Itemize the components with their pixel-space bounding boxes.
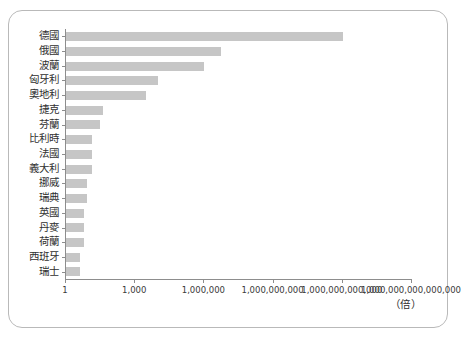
chart-figure: 德國俄國波蘭匈牙利奧地利捷克芬蘭比利時法國義大利挪威瑞典英國丹麥荷蘭西班牙瑞士 … [8,10,448,328]
category-label: 西班牙 [0,251,59,262]
bar-row [66,103,412,119]
bar [66,223,84,232]
bar [66,76,158,85]
bar-row [66,264,412,280]
value-tick-label: 1,000 [122,285,146,295]
bar-row [66,220,412,236]
value-tick-label: 1,000,000,000 [242,285,304,295]
bar [66,106,103,115]
bar [66,91,146,100]
category-tick [62,110,66,111]
category-tick [62,183,66,184]
category-tick [62,242,66,243]
bar-row [66,88,412,104]
bar-row [66,132,412,148]
category-tick [62,139,66,140]
category-axis-labels: 德國俄國波蘭匈牙利奧地利捷克芬蘭比利時法國義大利挪威瑞典英國丹麥荷蘭西班牙瑞士 [0,29,59,279]
value-tick [411,279,412,283]
bar [66,150,92,159]
bar-row [66,191,412,207]
category-label: 瑞士 [0,266,59,277]
category-label: 挪威 [0,177,59,188]
plot-area: 德國俄國波蘭匈牙利奧地利捷克芬蘭比利時法國義大利挪威瑞典英國丹麥荷蘭西班牙瑞士 … [65,29,425,279]
category-label: 瑞典 [0,192,59,203]
bars-group [66,29,412,279]
bar-row [66,161,412,177]
category-label: 匈牙利 [0,74,59,85]
unit-caption: （倍） [390,296,422,311]
value-tick [273,279,274,283]
bar [66,135,92,144]
category-tick [62,51,66,52]
bar-row [66,176,412,192]
bar-row [66,205,412,221]
category-tick [62,36,66,37]
category-tick [62,272,66,273]
category-label: 俄國 [0,45,59,56]
value-tick [342,279,343,283]
category-tick [62,198,66,199]
bar-row [66,147,412,163]
bar-row [66,73,412,89]
bar [66,120,100,129]
category-label: 奧地利 [0,89,59,100]
category-tick [62,154,66,155]
bar [66,165,92,174]
value-tick-label: 1 [62,285,67,295]
value-tick [203,279,204,283]
category-tick [62,228,66,229]
value-tick-label: 1,000,000,000,000,000 [361,285,461,295]
bar [66,194,87,203]
category-tick [62,95,66,96]
category-tick [62,257,66,258]
category-label: 法國 [0,148,59,159]
bar [66,32,343,41]
category-tick [62,169,66,170]
category-tick [62,80,66,81]
bar [66,179,87,188]
bar [66,253,80,262]
value-tick [134,279,135,283]
bar [66,267,80,276]
category-label: 英國 [0,207,59,218]
category-tick [62,66,66,67]
bar-row [66,117,412,133]
value-tick-label: 1,000,000 [182,285,225,295]
bar-row [66,29,412,45]
bar [66,62,204,71]
bar-row [66,235,412,251]
category-label: 丹麥 [0,222,59,233]
bar-row [66,250,412,266]
category-label: 義大利 [0,163,59,174]
category-label: 荷蘭 [0,236,59,247]
bar-row [66,44,412,60]
category-tick [62,213,66,214]
bar-row [66,58,412,74]
category-label: 捷克 [0,104,59,115]
category-tick [62,125,66,126]
bar [66,209,84,218]
category-label: 比利時 [0,133,59,144]
category-label: 芬蘭 [0,119,59,130]
bar [66,47,221,56]
category-label: 波蘭 [0,60,59,71]
category-label: 德國 [0,30,59,41]
bar [66,238,84,247]
value-tick [65,279,66,283]
